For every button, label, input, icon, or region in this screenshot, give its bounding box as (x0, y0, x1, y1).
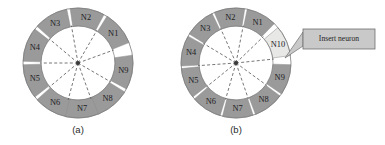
segment-label-n4: N4 (186, 48, 197, 57)
segment-label-n6: N6 (206, 97, 216, 106)
segment-label-n8: N8 (102, 94, 112, 103)
segment-label-n5: N5 (30, 74, 40, 83)
segment-label-n7: N7 (77, 104, 87, 113)
panel-caption: (b) (230, 124, 242, 135)
center-hub (234, 61, 238, 65)
segment-label-n2: N2 (81, 13, 91, 22)
segment-label-n9: N9 (275, 73, 285, 82)
panel-a: N1N2N3N4N5N6N7N8N9(a) (23, 8, 133, 135)
segment-label-n1: N1 (252, 18, 262, 27)
center-hub (76, 61, 80, 65)
panels-layer: N1N2N3N4N5N6N7N8N9(a)N1N2N3N4N5N6N7N8N9N… (23, 8, 291, 135)
panel-caption: (a) (72, 124, 84, 135)
segment-label-n5: N5 (188, 76, 198, 85)
segment-label-n9: N9 (118, 66, 128, 75)
segment-label-n8: N8 (259, 95, 269, 104)
segment-label-n3: N3 (200, 24, 210, 33)
segment-label-n4: N4 (30, 43, 41, 52)
segment-label-n2: N2 (225, 13, 235, 22)
segment-label-n1: N1 (108, 29, 118, 38)
insert-neuron-callout: Insert neuron (285, 29, 375, 58)
segment-label-n7: N7 (232, 104, 242, 113)
segment-label-n3: N3 (50, 19, 60, 28)
figure-container: N1N2N3N4N5N6N7N8N9(a)N1N2N3N4N5N6N7N8N9N… (0, 0, 385, 145)
callout-label: Insert neuron (319, 34, 359, 43)
segment-label-n6: N6 (50, 98, 60, 107)
segment-label-n10: N10 (271, 40, 285, 49)
panel-b: N1N2N3N4N5N6N7N8N9N10(b) (181, 8, 291, 135)
neuron-ring-diagram: N1N2N3N4N5N6N7N8N9(a)N1N2N3N4N5N6N7N8N9N… (0, 0, 385, 145)
